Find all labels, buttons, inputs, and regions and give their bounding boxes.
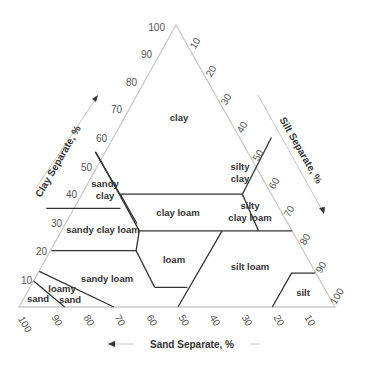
label-silt-loam: silt loam (231, 261, 270, 272)
svg-text:Silt Separate, %: Silt Separate, % (278, 115, 325, 186)
label-loamy-sand-1: loamy (48, 283, 76, 294)
sand-axis-ticks: 100 90 80 70 60 50 40 30 20 10 (16, 313, 318, 335)
svg-text:60: 60 (96, 133, 108, 144)
label-loam: loam (163, 254, 185, 265)
svg-text:80: 80 (126, 77, 138, 88)
label-sandy-clay-1: sandy (91, 178, 119, 189)
svg-text:100: 100 (16, 314, 34, 334)
svg-text:40: 40 (207, 313, 222, 329)
silt-axis-title: Silt Separate, % (258, 95, 325, 214)
svg-text:20: 20 (271, 313, 286, 329)
svg-text:30: 30 (51, 218, 63, 229)
label-sandy-clay-loam: sandy clay loam (66, 224, 139, 235)
label-sandy-loam: sandy loam (81, 273, 133, 284)
sand-axis-title: Sand Separate, % (108, 336, 260, 350)
svg-text:Sand Separate, %: Sand Separate, % (150, 339, 234, 350)
label-sand: sand (27, 293, 49, 304)
soil-texture-triangle: 100 90 80 70 60 50 40 30 20 10 10 20 30 … (0, 0, 369, 365)
svg-text:90: 90 (49, 313, 64, 329)
svg-text:30: 30 (239, 313, 254, 329)
label-silty-clay-1: silty (230, 161, 250, 172)
svg-text:10: 10 (302, 313, 317, 329)
svg-text:20: 20 (36, 246, 48, 257)
class-boundaries (34, 138, 316, 308)
svg-text:100: 100 (328, 286, 346, 306)
label-silty-clay-loam-1: silty (240, 200, 260, 211)
svg-text:80: 80 (81, 313, 96, 329)
svg-text:100: 100 (148, 22, 165, 33)
label-silty-clay-2: clay (231, 173, 250, 184)
label-silty-clay-loam-2: clay loam (228, 212, 271, 223)
svg-text:70: 70 (111, 104, 123, 115)
svg-text:50: 50 (81, 162, 93, 173)
svg-text:70: 70 (112, 313, 127, 329)
svg-text:90: 90 (141, 49, 153, 60)
label-silt: silt (296, 287, 311, 298)
label-clay-loam: clay loam (156, 207, 199, 218)
label-sandy-clay-2: clay (96, 190, 115, 201)
svg-text:10: 10 (21, 275, 33, 286)
svg-text:Clay Separate, %: Clay Separate, % (33, 124, 83, 199)
label-clay: clay (170, 112, 189, 123)
svg-text:50: 50 (176, 313, 191, 329)
svg-text:40: 40 (66, 189, 78, 200)
clay-axis-ticks: 100 90 80 70 60 50 40 30 20 10 (21, 22, 166, 286)
svg-text:60: 60 (144, 313, 159, 329)
label-loamy-sand-2: sand (59, 294, 81, 305)
